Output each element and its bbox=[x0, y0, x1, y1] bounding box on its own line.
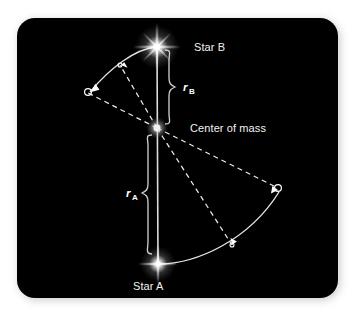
svg-text:B: B bbox=[189, 87, 195, 96]
svg-text:r: r bbox=[126, 187, 131, 199]
radius-b-label: r B bbox=[183, 81, 195, 96]
figure-root: Star B Star A Center of mass r B r A bbox=[0, 0, 356, 316]
center-of-mass-marker bbox=[146, 117, 168, 139]
star-b-marker bbox=[129, 19, 186, 76]
star-b-label: Star B bbox=[194, 41, 225, 53]
radius-a-label: r A bbox=[126, 187, 138, 202]
star-a-label: Star A bbox=[133, 280, 164, 292]
svg-text:r: r bbox=[183, 81, 188, 93]
binary-star-diagram: Star B Star A Center of mass r B r A bbox=[17, 18, 338, 298]
motion-arrow-b-end bbox=[91, 84, 100, 92]
separation-axis bbox=[157, 47, 158, 264]
svg-text:A: A bbox=[132, 193, 138, 202]
star-a-marker bbox=[138, 244, 178, 284]
orbit-arc-lower-right bbox=[158, 192, 279, 264]
center-of-mass-label: Center of mass bbox=[190, 122, 266, 134]
brace-radius-a bbox=[142, 135, 152, 254]
diagram-panel: Star B Star A Center of mass r B r A bbox=[17, 18, 338, 298]
